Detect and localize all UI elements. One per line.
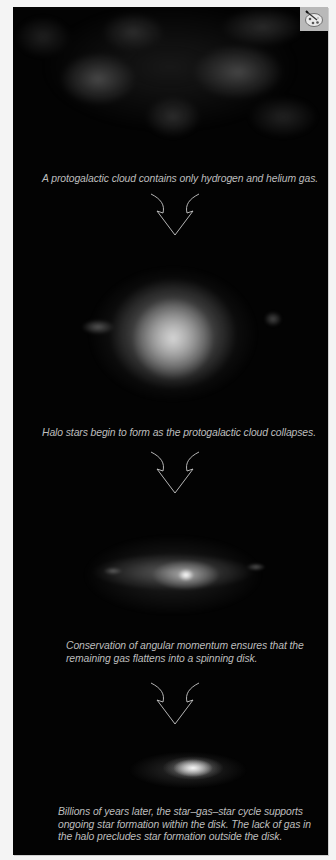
collapsing-cloud-image — [63, 249, 288, 419]
down-arrow-icon — [147, 191, 203, 237]
stage-3-caption-line-1: Conservation of angular momentum ensures… — [66, 640, 316, 653]
protogalactic-cloud-image — [13, 7, 328, 157]
down-arrow-icon — [147, 449, 203, 495]
artwork-badge — [300, 7, 328, 31]
down-arrow-icon — [147, 680, 203, 726]
flattening-disk-image — [68, 527, 278, 622]
galaxy-formation-diagram: A protogalactic cloud contains only hydr… — [13, 7, 328, 855]
stage-4-caption-line-1: Billions of years later, the star–gas–st… — [58, 806, 323, 819]
stage-1-caption: A protogalactic cloud contains only hydr… — [42, 173, 328, 186]
spiral-galaxy-image — [98, 740, 268, 800]
stage-4-caption-line-3: the halo precludes star formation outsid… — [58, 831, 323, 844]
stage-4-caption-line-2: ongoing star formation within the disk. … — [58, 819, 323, 832]
stage-4-caption: Billions of years later, the star–gas–st… — [58, 806, 323, 844]
stage-3-caption: Conservation of angular momentum ensures… — [66, 640, 316, 665]
stage-3-caption-line-2: remaining gas flattens into a spinning d… — [66, 653, 316, 666]
palette-brush-icon — [304, 10, 324, 28]
stage-2-caption: Halo stars begin to form as the protogal… — [42, 427, 328, 440]
